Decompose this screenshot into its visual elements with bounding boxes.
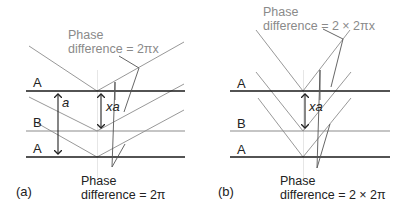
offset-label: xa bbox=[309, 100, 323, 113]
note-line: difference = 2π bbox=[81, 188, 166, 202]
note-line: Phase bbox=[280, 174, 386, 188]
bottom-phase-note: Phase difference = 2π bbox=[81, 174, 166, 202]
top-phase-note: Phase difference = 2πx bbox=[68, 28, 159, 56]
bottom-phase-note: Phase difference = 2 × 2π bbox=[280, 174, 386, 202]
layer-label-b: B bbox=[33, 116, 42, 129]
layer-label-a-bottom: A bbox=[237, 143, 246, 156]
layer-label-a-top: A bbox=[237, 77, 246, 90]
reflected-ray bbox=[97, 110, 184, 157]
incident-ray bbox=[256, 30, 303, 91]
note-line: difference = 2 × 2πx bbox=[263, 19, 375, 33]
top-note-pointer bbox=[323, 29, 343, 87]
note-line: difference = 2 × 2π bbox=[280, 188, 386, 202]
incident-ray bbox=[258, 98, 303, 157]
incident-ray bbox=[256, 72, 303, 131]
offset-label: xa bbox=[106, 100, 120, 113]
note-line: Phase bbox=[263, 5, 375, 19]
panel-caption-a: (a) bbox=[16, 185, 32, 198]
panel-caption-b: (b) bbox=[218, 185, 234, 198]
incident-ray bbox=[37, 123, 97, 157]
bottom-note-pointer bbox=[112, 82, 125, 167]
bottom-note-pointer bbox=[317, 70, 330, 168]
note-line: Phase bbox=[68, 28, 159, 42]
layer-label-a-top: A bbox=[33, 76, 42, 89]
spacing-label: a bbox=[62, 96, 69, 109]
note-line: difference = 2πx bbox=[68, 42, 159, 56]
top-note-pointer bbox=[119, 56, 139, 112]
note-line: Phase bbox=[81, 174, 166, 188]
layer-label-b: B bbox=[237, 117, 246, 130]
top-phase-note: Phase difference = 2 × 2πx bbox=[263, 5, 375, 33]
layer-label-a-bottom: A bbox=[33, 142, 42, 155]
